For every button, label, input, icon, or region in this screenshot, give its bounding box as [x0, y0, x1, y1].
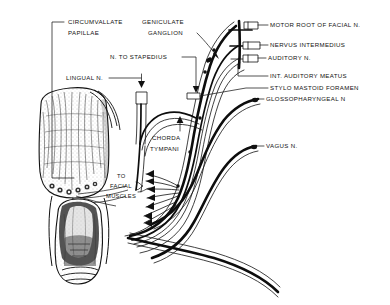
label-glossopharyngeal-n: GLOSSOPHARYNGEAL N — [266, 95, 345, 102]
label-circumvallate-papillae-line2: PAPILLAE — [68, 29, 99, 36]
label-to-facial-muscles-line2: FACIAL — [110, 183, 132, 189]
facial-nerve-diagram: CIRCUMVALLATE PAPILLAE GENICULATE GANGLI… — [0, 0, 390, 305]
label-chorda-tympani-line1: CHORDA — [152, 134, 181, 141]
label-n-to-stapedius: N. TO STAPEDIUS — [110, 53, 167, 60]
label-vagus-n: VAGUS N. — [266, 142, 297, 149]
nerve-cut-ends — [243, 22, 260, 62]
label-auditory-n: AUDITORY N. — [268, 54, 311, 61]
label-to-facial-muscles-line1: TO — [117, 173, 126, 179]
label-nervus-intermedius: NERVUS INTERMEDIUS — [270, 41, 345, 48]
label-to-facial-muscles-line3: MUSCLES — [106, 193, 136, 199]
label-int-auditory-meatus: INT. AUDITORY MEATUS — [270, 72, 347, 79]
anatomical-figure: CIRCUMVALLATE PAPILLAE GENICULATE GANGLI… — [0, 0, 390, 305]
label-geniculate-ganglion-line2: GANGLION — [148, 29, 183, 36]
label-geniculate-ganglion-line1: GENICULATE — [142, 18, 184, 25]
stylo-mastoid-foramen-marker — [187, 93, 200, 99]
label-stylo-mastoid-foramen: STYLO MASTOID FORAMEN — [270, 84, 359, 91]
label-lingual-n: LINGUAL N. — [66, 74, 103, 81]
label-motor-root-of-facial-n: MOTOR ROOT OF FACIAL N. — [270, 21, 360, 28]
label-circumvallate-papillae-line1: CIRCUMVALLATE — [68, 18, 123, 25]
label-chorda-tympani-line2: TYMPANI — [150, 145, 179, 152]
